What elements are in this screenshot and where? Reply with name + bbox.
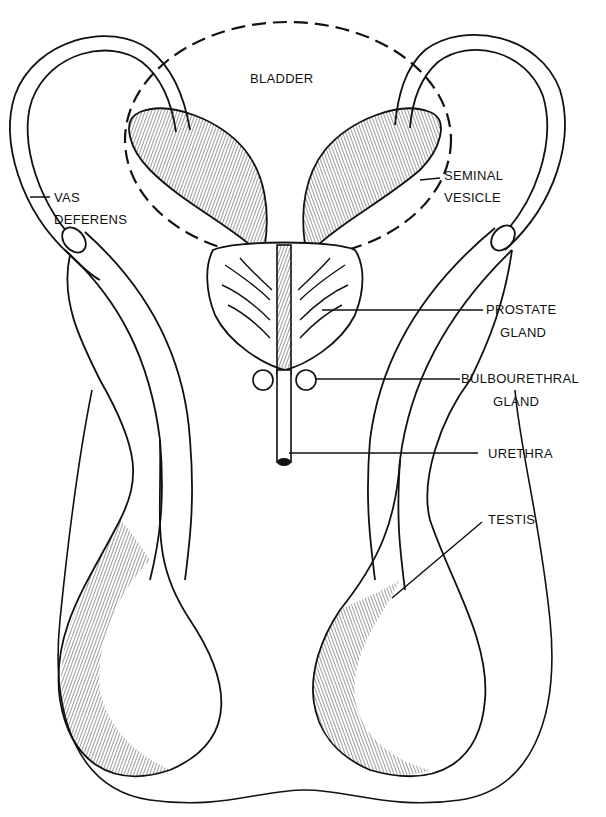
label-bladder-text: BLADDER <box>250 71 314 86</box>
urethra-opening <box>277 458 291 466</box>
label-bulbourethral-gland-line2: GLAND <box>493 393 579 410</box>
label-urethra-text: URETHRA <box>488 446 553 461</box>
label-seminal-vesicle: SEMINAL VESICLE <box>444 167 503 206</box>
bulbourethral-gland-left <box>253 370 273 390</box>
urethra-prostatic <box>277 245 291 375</box>
left-testis-shade <box>61 520 170 775</box>
left-duct <box>65 232 192 580</box>
vas-deferens-right-cut <box>486 221 519 255</box>
label-vas-deferens: VAS DEFERENS <box>54 189 127 228</box>
label-prostate-gland-line1: PROSTATE <box>486 301 557 318</box>
label-seminal-vesicle-line2: VESICLE <box>444 189 503 206</box>
label-testis: TESTIS <box>488 511 535 528</box>
seminal-vesicle-left <box>129 108 267 245</box>
scrotum-outline <box>58 390 552 803</box>
label-testis-text: TESTIS <box>488 512 535 527</box>
label-seminal-vesicle-line1: SEMINAL <box>444 167 503 184</box>
label-vas-deferens-line2: DEFERENS <box>54 211 127 228</box>
urethra-tube <box>277 370 291 462</box>
label-prostate-gland: PROSTATE GLAND <box>486 301 557 341</box>
label-bulbourethral-gland: BULBOURETHRAL GLAND <box>461 370 579 410</box>
label-prostate-gland-line2: GLAND <box>500 324 557 341</box>
label-urethra: URETHRA <box>488 445 553 462</box>
label-bladder: BLADDER <box>250 70 314 87</box>
bulbourethral-gland-right <box>296 370 316 390</box>
right-testis-shade <box>313 580 430 775</box>
label-bulbourethral-gland-line1: BULBOURETHRAL <box>461 370 579 387</box>
label-vas-deferens-line1: VAS <box>54 189 127 206</box>
seminal-vesicle-right <box>303 108 441 245</box>
